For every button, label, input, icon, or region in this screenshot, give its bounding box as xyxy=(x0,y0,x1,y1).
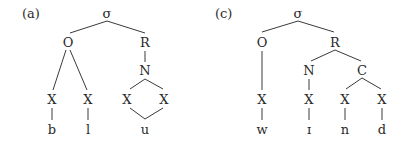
syllable-structure-diagram: (a) σ O R N X X X X b l u (c) σ xyxy=(0,0,405,146)
edge xyxy=(145,108,163,119)
tree-c-segment: d xyxy=(378,122,386,137)
edge xyxy=(362,78,381,89)
tree-a-nucleus-node: N xyxy=(139,63,150,78)
edge xyxy=(107,21,145,33)
tree-c-syllable-node: σ xyxy=(294,6,303,21)
edge xyxy=(70,21,107,33)
edge xyxy=(335,50,361,61)
tree-c-x-slot: X xyxy=(304,92,314,107)
tree-a-rime-node: R xyxy=(140,35,151,50)
tree-a-segment: b xyxy=(48,122,56,137)
tree-a-syllable-node: σ xyxy=(103,6,112,21)
tree-c-coda-node: C xyxy=(357,63,367,78)
edge xyxy=(145,79,163,89)
tree-c-segment: n xyxy=(341,122,350,137)
edge xyxy=(311,50,335,61)
tree-a-x-slot: X xyxy=(122,92,132,107)
tree-c-x-slot: X xyxy=(340,92,350,107)
edge xyxy=(130,108,145,119)
tree-a-onset-node: O xyxy=(63,35,74,50)
edge xyxy=(53,50,66,90)
tree-c-rime-node: R xyxy=(330,35,341,50)
tree-a-label: (a) xyxy=(22,6,40,21)
tree-c-segment: ɪ xyxy=(307,122,311,137)
tree-a-x-slot: X xyxy=(47,92,57,107)
tree-a-x-slot: X xyxy=(159,92,169,107)
edge xyxy=(262,21,298,32)
tree-c-label: (c) xyxy=(215,6,232,21)
tree-a-segment: l xyxy=(86,122,90,137)
tree-c-onset-node: O xyxy=(257,35,268,50)
edge xyxy=(346,78,362,89)
tree-a: (a) σ O R N X X X X b l u xyxy=(22,6,169,137)
tree-c-segment: w xyxy=(256,122,267,137)
edge xyxy=(130,79,145,89)
tree-c-x-slot: X xyxy=(377,92,387,107)
edge xyxy=(70,50,87,90)
tree-c-nucleus-node: N xyxy=(303,63,314,78)
tree-a-x-slot: X xyxy=(83,92,93,107)
edge xyxy=(298,21,334,32)
tree-a-segment: u xyxy=(141,122,149,137)
tree-c: (c) σ O R N C X X X X w ɪ n d xyxy=(215,6,387,137)
tree-c-x-slot: X xyxy=(257,92,267,107)
